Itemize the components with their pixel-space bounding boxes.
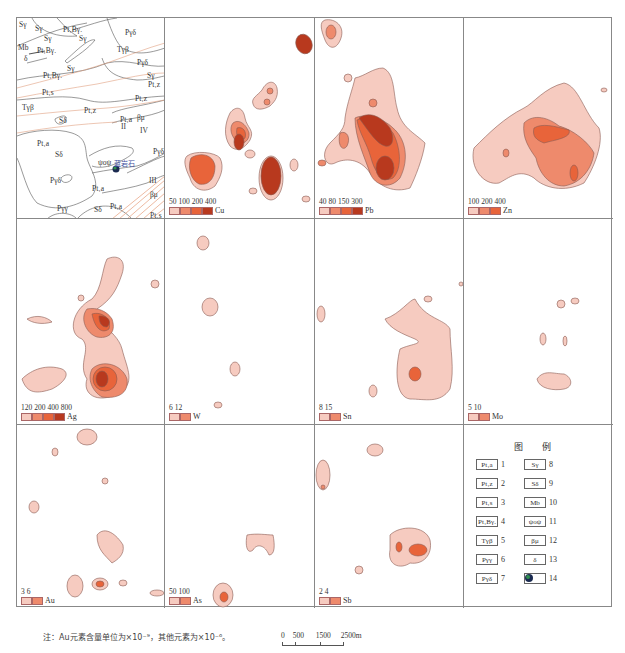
legend-swatch: [54, 413, 65, 421]
geology-label: ψoψ: [98, 158, 111, 167]
key-symbol: Pγγ: [476, 554, 498, 565]
legend-swatch: [169, 597, 180, 605]
key-number: 10: [549, 498, 557, 507]
geology-label: Pt₁s: [150, 211, 162, 219]
key-symbol: Pt₁s: [476, 497, 498, 508]
geology-label: Tγβ: [117, 45, 129, 54]
geology-label: Sγ: [35, 24, 43, 33]
geology-label: Pt₁Bγ.: [37, 46, 56, 55]
legend-swatch: [169, 413, 180, 421]
geology-label: IV: [140, 126, 148, 135]
map-key: 图 例 Pt₁a1Pt₁z2Pt₁s3Pt₁Bγ.4Tγβ5Pγγ6Pγδ7Sγ…: [464, 425, 613, 608]
deposit-marker-icon: [524, 573, 546, 584]
element-label: As: [193, 597, 202, 605]
legend-threshold: 300: [351, 198, 362, 206]
anomaly-legend-as: 50100As: [169, 588, 202, 605]
map-key-item: δ13: [524, 554, 557, 565]
key-number: 6: [501, 555, 505, 564]
legend-threshold: 3: [21, 588, 25, 596]
legend-thresholds: 24: [319, 588, 351, 596]
element-label: Cu: [215, 207, 224, 215]
geology-label: Pγδ: [125, 28, 136, 37]
map-key-item: Pγγ6: [476, 554, 505, 565]
key-number: 1: [501, 460, 505, 469]
scale-tick-2500m: 2500m: [341, 631, 362, 640]
legend-thresholds: 100200400: [468, 198, 512, 206]
geology-label: Pt₁Bγ.: [43, 71, 62, 80]
geology-label: Sγ: [67, 64, 75, 73]
map-key-panel: 图 例 Pt₁a1Pt₁z2Pt₁s3Pt₁Bγ.4Tγβ5Pγγ6Pγδ7Sγ…: [464, 425, 613, 608]
legend-swatch: [319, 413, 330, 421]
legend-threshold: 5: [468, 404, 472, 412]
legend-threshold: 12: [175, 404, 183, 412]
geology-label: Pt₁a: [37, 139, 49, 148]
legend-thresholds: 50100200400: [169, 198, 224, 206]
key-number: 2: [501, 479, 505, 488]
geology-label: Pt₁Bγ.: [63, 25, 82, 34]
geology-label: Sδ: [59, 116, 67, 125]
map-key-item: Pt₁s3: [476, 497, 505, 508]
panel-ag: 120200400800Ag: [17, 219, 165, 425]
legend-threshold: 200: [34, 404, 45, 412]
element-label: W: [193, 413, 201, 421]
geochemical-map-grid: SγSγPt₁Bγ.MbSγSγPt₁Bγ.PγδTγβPγδδSγPt₁Bγ.…: [16, 17, 612, 607]
geology-label: βμ: [150, 190, 158, 199]
panel-sn: 815Sn: [315, 219, 464, 425]
geology-label: II: [121, 122, 126, 131]
legend-swatch: [202, 207, 213, 215]
geology-label: δ: [24, 54, 28, 63]
legend-swatch: [341, 207, 352, 215]
key-symbol: Pγδ: [476, 573, 498, 584]
key-number: 7: [501, 574, 505, 583]
geology-label: Pγγ: [57, 204, 68, 213]
legend-swatch: [191, 207, 202, 215]
panel-sb: 24Sb: [315, 425, 464, 608]
legend-swatch: [479, 413, 490, 421]
legend-threshold: 10: [474, 404, 482, 412]
legend-swatch: [490, 207, 501, 215]
key-symbol: Tγβ: [476, 535, 498, 546]
geology-label: Pγδ: [137, 58, 148, 67]
legend-swatch: [330, 207, 341, 215]
pb-anomaly-contours: [315, 18, 464, 219]
geology-label: Pt₁a: [110, 202, 122, 211]
legend-threshold: 200: [481, 198, 492, 206]
legend-threshold: 4: [325, 588, 329, 596]
key-symbol: βμ: [524, 535, 546, 546]
scale-tick-1500: 1500: [316, 631, 331, 640]
legend-swatch: [180, 207, 191, 215]
geology-label: Pt₁s: [42, 88, 54, 97]
legend-swatch: [21, 597, 32, 605]
key-symbol: δ: [524, 554, 546, 565]
legend-threshold: 100: [179, 588, 190, 596]
map-key-item: Pt₁a1: [476, 459, 505, 470]
geology-label: Pt₁z: [135, 94, 147, 103]
legend-threshold: 400: [48, 404, 59, 412]
geology-label: Pt₁z: [84, 106, 96, 115]
panel-as: 50100As: [165, 425, 315, 608]
as-anomaly-contours: [165, 425, 315, 608]
element-label: Sb: [343, 597, 351, 605]
anomaly-legend-ag: 120200400800Ag: [21, 404, 77, 421]
geology-label: Mb: [18, 43, 28, 52]
scale-tick-500: 500: [293, 631, 304, 640]
anomaly-legend-au: 36Au: [21, 588, 55, 605]
cu-anomaly-contours: [165, 18, 315, 219]
legend-threshold: 8: [319, 404, 323, 412]
panel-zn: 100200400Zn: [464, 18, 613, 219]
au-anomaly-contours: [17, 425, 165, 608]
legend-swatch: [468, 207, 479, 215]
legend-threshold: 50: [169, 588, 177, 596]
sn-anomaly-contours: [315, 219, 464, 425]
legend-swatch: [468, 413, 479, 421]
legend-thresholds: 36: [21, 588, 55, 596]
legend-swatch: [330, 597, 341, 605]
map-key-item: Pγδ7: [476, 573, 505, 584]
element-label: Sn: [343, 413, 351, 421]
legend-threshold: 2: [319, 588, 323, 596]
legend-swatch: [32, 597, 43, 605]
legend-swatch: [319, 207, 330, 215]
map-key-item: βμ12: [524, 535, 557, 546]
map-key-item: Pt₁z2: [476, 478, 505, 489]
key-number: 11: [549, 517, 557, 526]
